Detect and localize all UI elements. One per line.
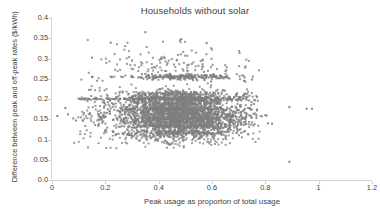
x-tick-mark xyxy=(105,181,106,184)
x-axis-title: Peak usage as proporton of total usage xyxy=(52,197,372,206)
x-tick-label: 1 xyxy=(304,183,334,192)
x-tick-mark xyxy=(52,181,53,184)
x-tick-label: 0.2 xyxy=(90,183,120,192)
chart-figure: Households without solar Difference betw… xyxy=(0,0,380,213)
y-tick-label: 0.35 xyxy=(22,34,48,42)
x-tick-label: 0 xyxy=(37,183,67,192)
y-tick-mark xyxy=(48,99,51,100)
x-tick-label: 0.4 xyxy=(144,183,174,192)
x-tick-mark xyxy=(265,181,266,184)
x-tick-label: 1.2 xyxy=(357,183,380,192)
y-tick-mark xyxy=(48,180,51,181)
y-tick-label: 0.05 xyxy=(22,156,48,164)
chart-title: Households without solar xyxy=(60,5,330,16)
y-tick-mark xyxy=(48,18,51,19)
y-tick-label: 0.3 xyxy=(22,55,48,63)
plot-area xyxy=(52,18,372,180)
y-tick-mark xyxy=(48,160,51,161)
y-tick-mark xyxy=(48,59,51,60)
y-tick-mark xyxy=(48,119,51,120)
x-tick-label: 0.8 xyxy=(250,183,280,192)
x-tick-mark xyxy=(212,181,213,184)
x-tick-label: 0.6 xyxy=(197,183,227,192)
y-tick-label: 0.15 xyxy=(22,115,48,123)
y-tick-mark xyxy=(48,140,51,141)
y-tick-label: 0.2 xyxy=(22,95,48,103)
y-tick-label: 0.1 xyxy=(22,136,48,144)
x-tick-mark xyxy=(319,181,320,184)
scatter-plot-markers xyxy=(52,18,372,180)
y-axis-tick-labels: 0.00.050.10.150.20.250.30.350.4 xyxy=(20,0,48,213)
y-axis-title: Difference between peak and off-peak rat… xyxy=(10,9,20,185)
x-tick-mark xyxy=(372,181,373,184)
y-tick-label: 0.4 xyxy=(22,14,48,22)
x-tick-mark xyxy=(159,181,160,184)
y-tick-mark xyxy=(48,79,51,80)
y-tick-label: 0.25 xyxy=(22,75,48,83)
y-tick-mark xyxy=(48,38,51,39)
